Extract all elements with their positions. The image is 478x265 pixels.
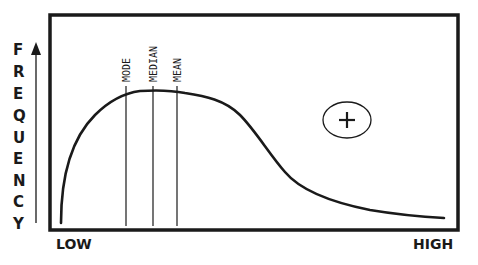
y-letter: U — [13, 129, 25, 147]
plot-frame — [50, 15, 458, 230]
y-letter: C — [13, 193, 24, 211]
y-letter: E — [13, 150, 23, 168]
y-letter: F — [13, 41, 23, 59]
y-axis-label: F R E Q U E N C Y — [12, 41, 26, 233]
median-label: MEDIAN — [148, 46, 159, 82]
arrow-up-icon — [31, 42, 41, 55]
distribution-curve — [61, 90, 444, 223]
skew-diagram: F R E Q U E N C Y MODE MEDIAN MEAN LOW H… — [0, 0, 478, 265]
y-letter: Q — [13, 107, 26, 125]
y-letter: R — [13, 63, 25, 81]
mode-label: MODE — [121, 58, 132, 82]
x-high-label: HIGH — [413, 236, 453, 252]
y-letter: N — [13, 172, 26, 190]
y-letter: E — [13, 85, 23, 103]
y-letter: Y — [12, 215, 25, 233]
x-low-label: LOW — [56, 236, 92, 252]
mean-label: MEAN — [172, 58, 183, 82]
